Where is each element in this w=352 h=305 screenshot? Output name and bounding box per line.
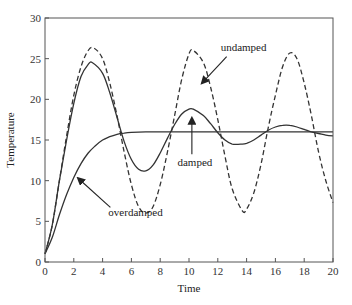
y-tick-label: 0 [36, 256, 42, 268]
undamped-label: undamped [221, 41, 267, 53]
y-tick-label: 20 [30, 93, 42, 105]
x-tick-label: 16 [270, 265, 282, 277]
chart-curves [45, 47, 333, 253]
x-tick-label: 8 [157, 265, 163, 277]
series-overdamped-line [45, 132, 333, 254]
y-tick-label: 10 [30, 175, 42, 187]
x-tick-label: 12 [212, 265, 223, 277]
x-tick-label: 0 [42, 265, 48, 277]
damped-label: damped [177, 156, 212, 168]
y-tick-label: 5 [36, 215, 42, 227]
series-undamped-line [45, 47, 333, 253]
x-tick-label: 6 [129, 265, 135, 277]
overdamped-arrow-icon [78, 178, 110, 207]
x-tick-label: 4 [100, 265, 106, 277]
y-tick-label: 15 [30, 134, 42, 146]
x-tick-label: 18 [299, 265, 311, 277]
line-chart: 02468101214161820051015202530 undampedda… [0, 0, 352, 305]
overdamped-label: overdamped [108, 206, 163, 218]
y-axis-title: Temperature [4, 112, 16, 168]
axis-ticks: 02468101214161820051015202530 [30, 12, 339, 277]
plot-frame [45, 18, 333, 262]
x-tick-label: 14 [241, 265, 253, 277]
x-tick-label: 20 [328, 265, 340, 277]
y-tick-label: 30 [30, 12, 42, 24]
x-tick-label: 10 [184, 265, 196, 277]
undamped-arrow-icon [202, 57, 227, 84]
x-tick-label: 2 [71, 265, 77, 277]
y-tick-label: 25 [30, 53, 42, 65]
x-axis-title: Time [178, 282, 201, 294]
